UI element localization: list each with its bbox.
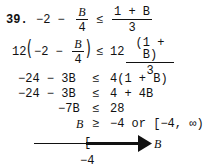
step-1-rhs: 4(1 + B) xyxy=(110,73,168,85)
step-3-rhs: 28 xyxy=(110,103,124,115)
line2-rhs-fraction: (1 + B) 3 xyxy=(126,37,174,77)
line1-relation: ≤ xyxy=(96,14,103,26)
line2-inner-const: −2 − xyxy=(34,46,63,58)
number-line-variable: B xyxy=(154,138,161,150)
step-3-lhs: −7B xyxy=(58,103,80,115)
line2-inner-fraction: B 4 xyxy=(72,38,84,66)
line2-inner-frac-den: 4 xyxy=(72,52,84,66)
number-line-axis xyxy=(34,143,86,144)
problem-number: 39. xyxy=(6,14,28,26)
step-2-rhs: 4 + 4B xyxy=(110,88,153,100)
step-2-rel: ≤ xyxy=(92,88,99,100)
solution-ray xyxy=(86,142,142,145)
closed-bracket: [ xyxy=(84,137,91,149)
line2-relation: ≤ xyxy=(96,46,103,58)
line1-rhs-frac-num: 1 + B xyxy=(112,6,152,19)
step-2-lhs: −24 − 3B xyxy=(18,88,76,100)
line1-lhs-frac-den: 4 xyxy=(76,20,88,34)
step-3-rel: ≤ xyxy=(92,103,99,115)
line2-coef-left: 12 xyxy=(12,46,26,58)
line1-rhs-fraction: 1 + B 3 xyxy=(112,6,152,34)
step-4-rel: ≥ xyxy=(92,118,99,130)
line2-rhs-frac-num: (1 + B) xyxy=(126,37,174,62)
step-4-rhs: −4 or [−4, ∞) xyxy=(110,118,204,130)
right-paren: ) xyxy=(86,37,91,59)
line2-coef-right: 12 xyxy=(110,46,124,58)
arrow-right-icon xyxy=(138,135,152,152)
line1-lhs-frac-num: B xyxy=(76,6,88,19)
step-1-lhs: −24 − 3B xyxy=(18,73,76,85)
step-1-rel: ≤ xyxy=(92,73,99,85)
endpoint-label: −4 xyxy=(80,155,94,167)
line1-lhs-const: −2 − xyxy=(36,14,65,26)
step-4-lhs: B xyxy=(76,118,83,130)
left-paren: ( xyxy=(27,37,32,59)
line1-rhs-frac-den: 3 xyxy=(112,20,152,34)
line1-lhs-fraction: B 4 xyxy=(76,6,88,34)
line2-inner-frac-num: B xyxy=(72,38,84,51)
